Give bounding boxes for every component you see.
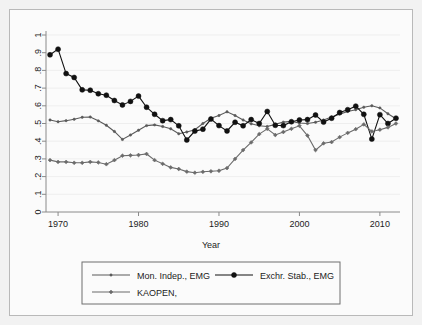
- data-point-marker: [226, 111, 228, 113]
- data-point-marker: [110, 274, 112, 276]
- data-point-marker: [202, 122, 204, 124]
- y-tick-label: .7: [33, 84, 43, 92]
- data-point-marker: [208, 117, 213, 122]
- data-point-marker: [88, 88, 93, 93]
- data-point-marker: [281, 123, 286, 128]
- series-line: [50, 124, 396, 173]
- x-axis-title: Year: [202, 240, 220, 250]
- data-point-marker: [305, 117, 310, 122]
- data-point-marker: [48, 52, 53, 57]
- data-point-marker: [217, 169, 221, 173]
- data-point-marker: [257, 121, 262, 126]
- data-point-marker: [177, 167, 181, 171]
- data-point-marker: [178, 133, 180, 135]
- data-point-marker: [249, 117, 254, 122]
- data-point-marker: [170, 128, 172, 130]
- data-point-marker: [345, 107, 350, 112]
- data-point-marker: [136, 94, 141, 99]
- data-point-marker: [361, 112, 366, 117]
- figure-container: 0.1.2.3.4.5.6.7.8.91 1970198019902000201…: [0, 0, 422, 325]
- data-point-marker: [250, 123, 252, 125]
- x-tick-label: 2000: [289, 219, 309, 229]
- data-point-marker: [128, 99, 133, 104]
- data-point-marker: [161, 162, 165, 166]
- data-point-marker: [137, 129, 139, 131]
- data-point-marker: [209, 169, 213, 173]
- legend-label: KAOPEN,: [137, 288, 177, 298]
- data-point-marker: [120, 102, 125, 107]
- series-mon-indep-emg: [49, 105, 397, 141]
- data-point-marker: [129, 153, 133, 157]
- data-point-marker: [184, 137, 189, 142]
- data-point-marker: [57, 121, 59, 123]
- data-point-marker: [216, 123, 221, 128]
- data-point-marker: [192, 129, 197, 134]
- data-point-marker: [168, 117, 173, 122]
- data-point-marker: [393, 116, 398, 121]
- data-point-marker: [56, 47, 61, 52]
- y-tick-label: 0: [33, 209, 43, 214]
- data-point-marker: [105, 124, 107, 126]
- data-point-marker: [144, 105, 149, 110]
- data-point-marker: [273, 123, 278, 128]
- data-point-marker: [161, 125, 163, 127]
- y-tick-label: .2: [33, 173, 43, 181]
- data-point-marker: [232, 273, 237, 278]
- data-point-marker: [218, 114, 220, 116]
- data-point-marker: [185, 170, 189, 174]
- y-tick-label: .8: [33, 67, 43, 75]
- data-point-marker: [160, 118, 165, 123]
- y-tick-labels-group: 0.1.2.3.4.5.6.7.8.91: [33, 32, 43, 214]
- data-point-marker: [377, 112, 382, 117]
- x-tick-labels-group: 19701980199020002010: [48, 219, 390, 229]
- series-group: [48, 47, 399, 175]
- data-point-marker: [96, 91, 101, 96]
- data-point-marker: [72, 161, 76, 165]
- data-point-marker: [56, 160, 60, 164]
- line-chart: 0.1.2.3.4.5.6.7.8.91 1970198019902000201…: [0, 0, 422, 325]
- data-point-marker: [289, 127, 293, 131]
- x-tick-label: 1970: [48, 219, 68, 229]
- y-tick-label: .4: [33, 137, 43, 145]
- data-point-marker: [313, 113, 318, 118]
- data-point-marker: [233, 120, 238, 125]
- data-point-marker: [265, 109, 270, 114]
- data-point-marker: [169, 165, 173, 169]
- data-point-marker: [80, 161, 84, 165]
- data-point-marker: [81, 116, 83, 118]
- data-point-marker: [201, 170, 205, 174]
- data-point-marker: [289, 119, 294, 124]
- data-point-marker: [89, 116, 91, 118]
- data-point-marker: [394, 122, 398, 126]
- data-point-marker: [80, 87, 85, 92]
- x-tick-label: 1990: [209, 219, 229, 229]
- data-point-marker: [104, 93, 109, 98]
- series-line: [50, 49, 396, 140]
- series-exchr-stab-emg: [48, 47, 399, 143]
- data-point-marker: [379, 107, 381, 109]
- data-point-marker: [153, 124, 155, 126]
- data-point-marker: [314, 121, 316, 123]
- data-point-marker: [104, 162, 108, 166]
- data-point-marker: [346, 131, 350, 135]
- data-point-marker: [88, 160, 92, 164]
- y-tick-label: .1: [33, 191, 43, 199]
- data-point-marker: [145, 124, 147, 126]
- data-point-marker: [72, 75, 77, 80]
- y-tick-label: .9: [33, 49, 43, 57]
- data-point-marker: [225, 128, 230, 133]
- data-point-marker: [297, 117, 302, 122]
- data-point-marker: [113, 130, 115, 132]
- data-point-marker: [234, 114, 236, 116]
- data-point-marker: [321, 120, 326, 125]
- x-tick-label: 2010: [370, 219, 390, 229]
- data-point-marker: [186, 131, 188, 133]
- y-tick-label: 1: [33, 32, 43, 37]
- legend-label: Exchr. Stab., EMG: [260, 271, 334, 281]
- data-point-marker: [353, 104, 358, 109]
- data-point-marker: [176, 123, 181, 128]
- legend-label: Mon. Indep., EMG: [137, 271, 210, 281]
- data-point-marker: [200, 127, 205, 132]
- gridlines-group: [46, 35, 400, 194]
- data-point-marker: [152, 112, 157, 117]
